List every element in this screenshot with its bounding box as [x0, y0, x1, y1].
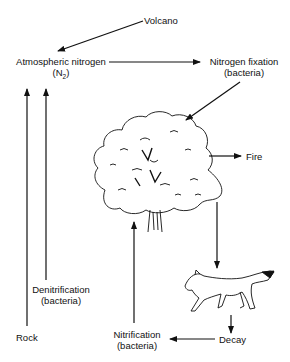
- fire-label: Fire: [246, 151, 262, 162]
- atmospheric-nitrogen-title: Atmospheric nitrogen: [13, 56, 109, 67]
- rock-label: Rock: [16, 332, 38, 343]
- denitrification-sub: (bacteria): [28, 295, 94, 306]
- nitrification-sub: (bacteria): [112, 340, 162, 351]
- nitrification-label: Nitrification (bacteria): [112, 329, 162, 351]
- coyote-illustration: [185, 270, 274, 311]
- denitrification-label: Denitrification (bacteria): [28, 284, 94, 306]
- arrow-fixation-to-tree: [186, 82, 240, 120]
- nitrogen-fixation-title: Nitrogen fixation: [203, 56, 285, 67]
- denitrification-title: Denitrification: [28, 284, 94, 295]
- atmospheric-nitrogen-formula: (N2): [13, 67, 109, 82]
- nitrogen-fixation-sub: (bacteria): [203, 67, 285, 78]
- nitrogen-fixation-label: Nitrogen fixation (bacteria): [203, 56, 285, 78]
- atmospheric-nitrogen-label: Atmospheric nitrogen (N2): [13, 56, 109, 82]
- arrow-volcano-to-atmosphere: [58, 21, 143, 51]
- volcano-label: Volcano: [144, 15, 178, 26]
- diagram-canvas: [0, 0, 290, 362]
- nitrification-title: Nitrification: [112, 329, 162, 340]
- tree-illustration: [94, 112, 222, 232]
- decay-label: Decay: [219, 334, 246, 345]
